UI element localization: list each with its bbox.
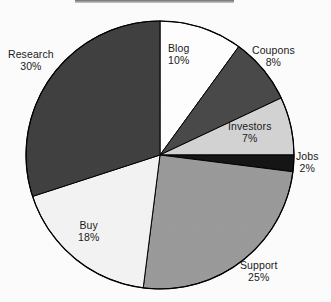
pie-label-name: Support <box>240 259 277 271</box>
pie-label-research: Research30% <box>8 48 54 72</box>
pie-label-name: Buy <box>78 219 99 231</box>
pie-label-value: 7% <box>228 132 272 144</box>
pie-label-support: Support25% <box>240 259 277 283</box>
pie-label-blog: Blog10% <box>168 42 189 66</box>
page-canvas: Blog10%Coupons8%Investors7%Jobs2%Support… <box>0 0 331 302</box>
pie-label-value: 30% <box>8 60 54 72</box>
pie-label-value: 2% <box>296 162 319 174</box>
pie-chart: Blog10%Coupons8%Investors7%Jobs2%Support… <box>0 0 331 302</box>
pie-label-coupons: Coupons8% <box>252 44 295 68</box>
pie-label-name: Research <box>8 48 54 60</box>
pie-label-name: Jobs <box>296 150 319 162</box>
pie-label-value: 10% <box>168 54 189 66</box>
pie-label-value: 8% <box>252 56 295 68</box>
pie-label-name: Investors <box>228 120 272 132</box>
pie-label-value: 18% <box>78 231 99 243</box>
pie-label-jobs: Jobs2% <box>296 150 319 174</box>
pie-label-value: 25% <box>240 271 277 283</box>
pie-label-name: Coupons <box>252 44 295 56</box>
pie-label-investors: Investors7% <box>228 120 272 144</box>
pie-label-name: Blog <box>168 42 189 54</box>
pie-label-buy: Buy18% <box>78 219 99 243</box>
